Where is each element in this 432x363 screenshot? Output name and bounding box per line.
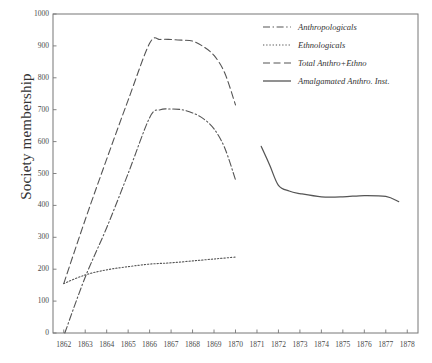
legend-item[interactable]: Ethnologicals xyxy=(262,36,424,54)
y-tick-label: 100 xyxy=(9,296,49,305)
legend-line-icon xyxy=(262,75,292,87)
y-tick-label: 800 xyxy=(9,73,49,82)
legend-line-icon xyxy=(262,57,292,69)
y-tick-label: 600 xyxy=(9,137,49,146)
y-tick-label: 200 xyxy=(9,264,49,273)
legend-item[interactable]: Amalgamated Anthro. Inst. xyxy=(262,72,424,90)
y-tick-label: 1000 xyxy=(9,9,49,18)
y-tick-label: 700 xyxy=(9,105,49,114)
legend-item[interactable]: Total Anthro+Ethno xyxy=(262,54,424,72)
series-line xyxy=(64,257,236,283)
y-tick-label: 300 xyxy=(9,232,49,241)
legend-label: Total Anthro+Ethno xyxy=(298,58,366,68)
series-line xyxy=(65,109,236,333)
x-tick-label: 1878 xyxy=(391,340,423,349)
legend-label: Amalgamated Anthro. Inst. xyxy=(298,76,390,86)
legend-label: Anthropologicals xyxy=(298,22,357,32)
y-tick-label: 900 xyxy=(9,41,49,50)
series-line xyxy=(64,38,236,284)
legend-line-icon xyxy=(262,21,292,33)
y-tick-label: 400 xyxy=(9,200,49,209)
chart-figure: Society membership 010020030040050060070… xyxy=(0,0,432,363)
legend-line-icon xyxy=(262,39,292,51)
y-tick-label: 500 xyxy=(9,169,49,178)
legend-item[interactable]: Anthropologicals xyxy=(262,18,424,36)
legend-label: Ethnologicals xyxy=(298,40,345,50)
chart-legend: AnthropologicalsEthnologicalsTotal Anthr… xyxy=(262,18,424,90)
y-tick-label: 0 xyxy=(9,328,49,337)
series-line xyxy=(261,146,398,201)
